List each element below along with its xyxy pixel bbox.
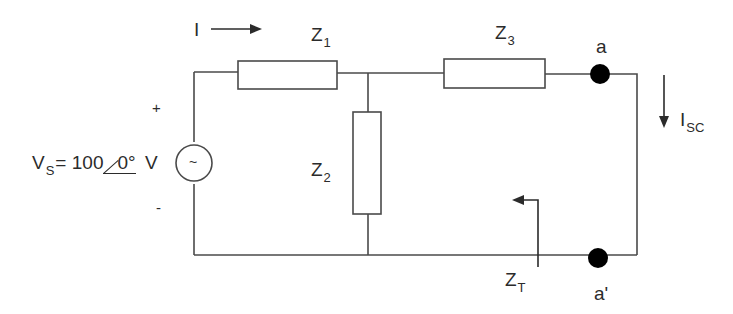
source-voltage-label: VS= 1000° V bbox=[32, 153, 158, 172]
isc-label-sub: SC bbox=[686, 120, 704, 135]
z2-label-sub: 2 bbox=[324, 170, 331, 185]
minus-sign-text: - bbox=[156, 199, 161, 216]
terminal-a-label: a bbox=[596, 37, 607, 56]
thevenin-impedance-arrow-icon bbox=[512, 195, 538, 267]
terminal-a-prime-label: a' bbox=[594, 284, 608, 303]
vs-label-main: V bbox=[32, 152, 45, 173]
ac-source-symbol-text: ~ bbox=[189, 154, 197, 170]
vs-magnitude: 100 bbox=[72, 152, 104, 173]
terminal-a-prime-text: a' bbox=[594, 283, 608, 304]
wire-z3-to-a bbox=[545, 74, 637, 255]
zt-label-sub: T bbox=[518, 280, 526, 295]
z1-label-main: Z bbox=[311, 24, 323, 45]
short-circuit-current-label: ISC bbox=[680, 110, 704, 129]
phase-angle: 0° bbox=[103, 153, 135, 172]
terminal-a-text: a bbox=[596, 36, 607, 57]
current-label: I bbox=[194, 20, 199, 39]
source-minus-sign: - bbox=[156, 200, 161, 215]
z3-label: Z3 bbox=[495, 23, 515, 42]
z1-label: Z1 bbox=[311, 25, 331, 44]
current-arrow-icon bbox=[211, 24, 262, 34]
impedance-z3 bbox=[444, 59, 545, 88]
z3-label-main: Z bbox=[495, 22, 507, 43]
vs-equals: = bbox=[55, 152, 66, 173]
plus-sign-text: + bbox=[152, 99, 161, 116]
terminal-a bbox=[590, 64, 610, 84]
zt-label-main: Z bbox=[505, 269, 517, 290]
z2-label: Z2 bbox=[311, 160, 331, 179]
isc-label-main: I bbox=[680, 109, 685, 130]
z3-label-sub: 3 bbox=[508, 33, 515, 48]
terminal-a-prime bbox=[588, 248, 608, 268]
impedance-z1 bbox=[238, 61, 337, 89]
source-plus-sign: + bbox=[152, 100, 161, 115]
current-label-text: I bbox=[194, 19, 199, 40]
vs-angle: 0° bbox=[117, 152, 135, 173]
z1-label-sub: 1 bbox=[324, 35, 331, 50]
short-circuit-current-arrow-icon bbox=[659, 75, 669, 128]
z2-label-main: Z bbox=[311, 159, 323, 180]
vs-label-sub: S bbox=[46, 163, 55, 178]
impedance-z2 bbox=[353, 112, 381, 214]
ac-source-symbol: ~ bbox=[189, 155, 197, 169]
vs-unit: V bbox=[145, 152, 158, 173]
zt-label: ZT bbox=[505, 270, 526, 289]
